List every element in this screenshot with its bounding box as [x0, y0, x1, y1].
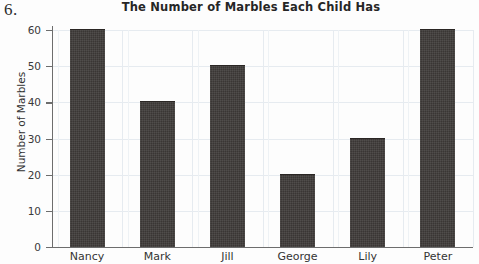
gridline-vertical-minor [198, 30, 199, 247]
x-tick-label-mark: Mark [144, 250, 171, 263]
y-tick-label: 50 [17, 60, 41, 72]
gridline-vertical [122, 30, 123, 247]
y-tick-label: 30 [17, 133, 41, 145]
x-tick-label-george: George [278, 250, 318, 263]
x-axis-line [52, 247, 473, 248]
x-tick-label-nancy: Nancy [70, 250, 105, 263]
y-tick-mark [46, 139, 53, 140]
gridline-vertical [473, 30, 474, 247]
gridline-vertical [333, 30, 334, 247]
y-axis-tick-labels: 0102030405060 [17, 0, 41, 264]
gridline-vertical-minor [408, 30, 409, 247]
gridline-vertical-minor [58, 30, 59, 247]
worksheet-page: 6. The Number of Marbles Each Child Has … [0, 0, 479, 264]
bar-george [280, 174, 315, 247]
bar-jill [210, 65, 245, 247]
bar-lily [350, 138, 385, 248]
y-tick-label: 0 [17, 241, 41, 253]
y-tick-mark [46, 66, 53, 67]
bar-nancy [70, 29, 105, 247]
gridline-vertical [192, 30, 193, 247]
gridline-vertical [403, 30, 404, 247]
y-tick-mark [46, 175, 53, 176]
y-tick-mark [46, 211, 53, 212]
gridline-vertical-minor [128, 30, 129, 247]
gridline-vertical-minor [268, 30, 269, 247]
y-tick-mark [46, 247, 53, 248]
x-tick-label-jill: Jill [221, 250, 233, 263]
y-tick-label: 20 [17, 169, 41, 181]
y-tick-label: 60 [17, 24, 41, 36]
x-tick-label-lily: Lily [358, 250, 377, 263]
y-axis-line [52, 26, 53, 248]
chart-title: The Number of Marbles Each Child Has [96, 0, 406, 14]
bar-mark [140, 101, 175, 247]
bar-peter [420, 29, 455, 247]
gridline-vertical-minor [338, 30, 339, 247]
y-tick-mark [46, 30, 53, 31]
y-tick-mark [46, 102, 53, 103]
x-tick-label-peter: Peter [424, 250, 453, 263]
y-tick-label: 40 [17, 96, 41, 108]
question-number: 6. [4, 0, 18, 20]
y-tick-label: 10 [17, 205, 41, 217]
gridline-vertical [263, 30, 264, 247]
plot-area [52, 30, 473, 247]
